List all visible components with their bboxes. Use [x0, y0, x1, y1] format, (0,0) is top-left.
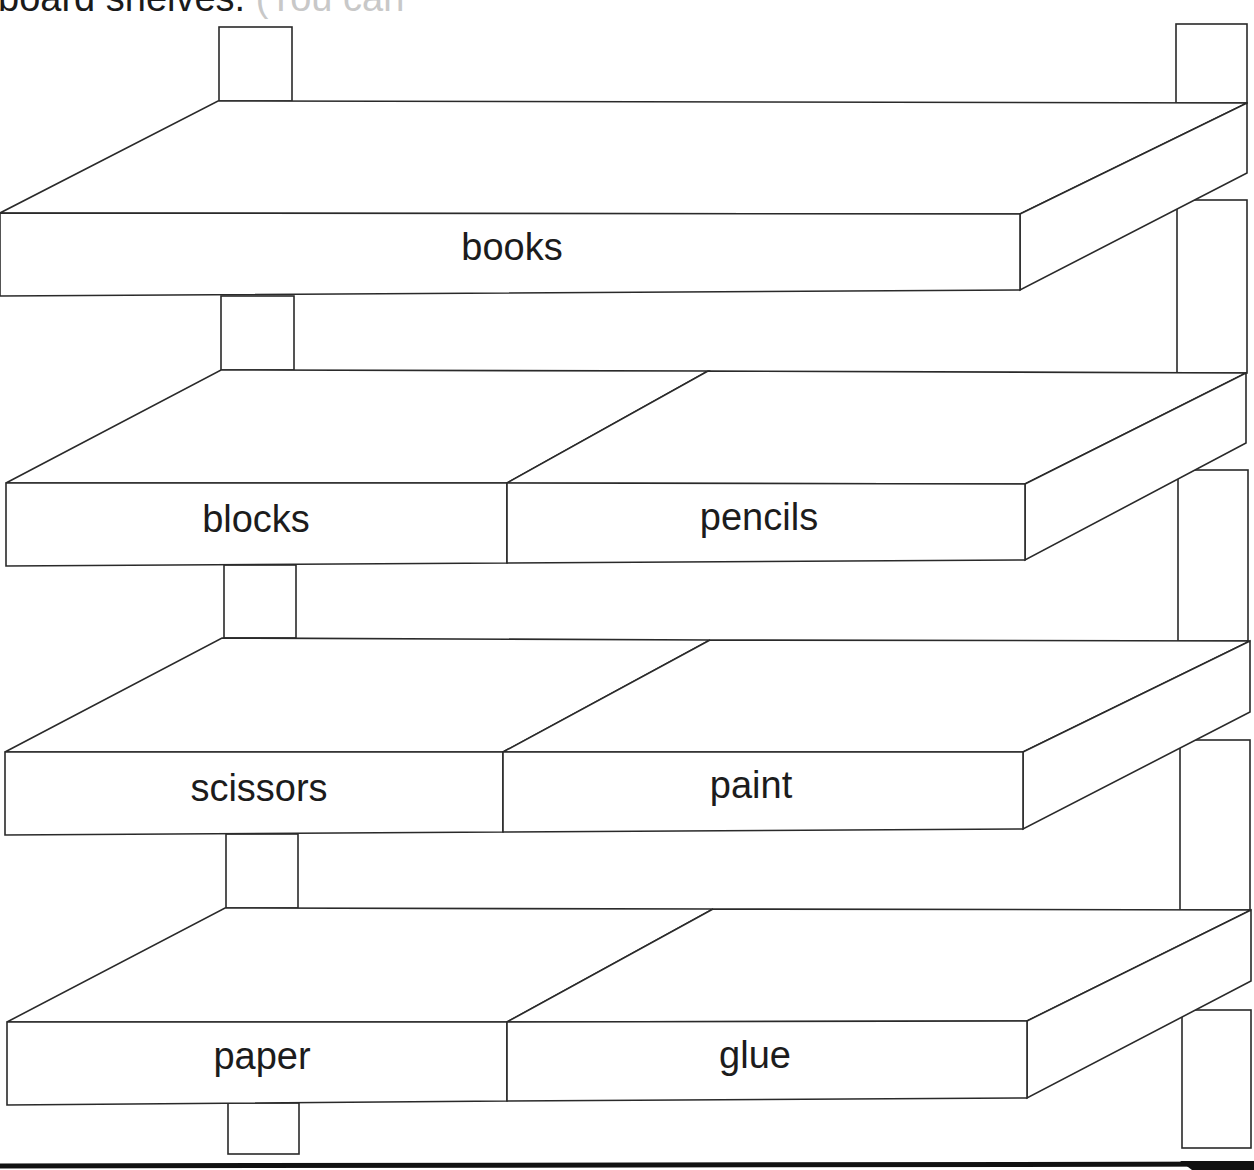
right-post-bottom	[1182, 1010, 1251, 1148]
shelf-label-pencils: pencils	[700, 496, 818, 538]
shelf-label-blocks: blocks	[202, 498, 310, 540]
shelf-label-scissors: scissors	[190, 767, 327, 809]
left-post-bottom	[228, 1103, 299, 1154]
right-post-segment-3	[1180, 740, 1250, 910]
left-post-top	[219, 27, 292, 101]
right-post-top	[1176, 24, 1247, 103]
left-post-segment-3	[226, 834, 298, 908]
floor-line	[0, 1164, 1254, 1166]
shelf-label-paper: paper	[213, 1035, 311, 1077]
left-post-segment-2	[224, 565, 296, 638]
right-post-segment-1	[1177, 200, 1247, 373]
left-post-segment-1	[221, 296, 294, 370]
shelf-1: books	[0, 101, 1247, 296]
right-post-segment-2	[1178, 470, 1248, 641]
shelf-4: paper glue	[7, 908, 1251, 1105]
shelving-unit-diagram: books blocks pencils scissors paint pape…	[0, 0, 1254, 1170]
shelf-3: scissors paint	[5, 638, 1250, 835]
shelf-label-paint: paint	[710, 764, 793, 806]
shelf-2: blocks pencils	[6, 370, 1246, 566]
shelf-label-books: books	[461, 226, 562, 268]
floor-shadow	[1180, 1161, 1254, 1170]
shelf-label-glue: glue	[719, 1034, 791, 1076]
